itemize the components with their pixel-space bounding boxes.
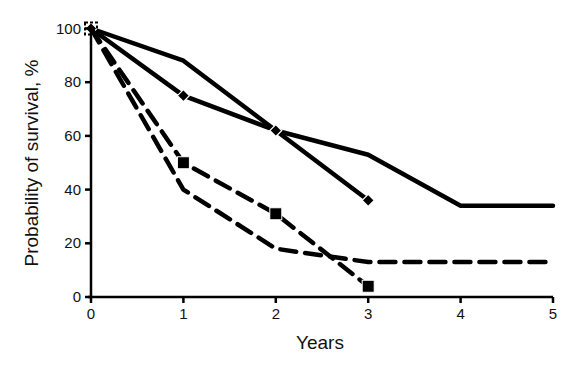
plot-area — [85, 23, 553, 293]
y-tick-label: 20 — [64, 234, 81, 251]
series-line — [91, 29, 553, 206]
x-tick-label: 0 — [87, 305, 95, 322]
x-tick-label: 1 — [179, 305, 187, 322]
x-tick-label: 3 — [364, 305, 372, 322]
series-4 — [91, 29, 553, 263]
square-marker-icon — [270, 208, 282, 220]
y-tick-label: 100 — [56, 20, 81, 37]
y-tick-label: 0 — [73, 288, 81, 305]
square-marker-icon — [362, 280, 374, 292]
series-1 — [91, 29, 553, 206]
series-2 — [85, 23, 374, 207]
y-tick-label: 80 — [64, 73, 81, 90]
x-axis-title: Years — [296, 332, 344, 353]
survival-chart: 012345 020406080100 Years Probability of… — [0, 0, 575, 369]
y-axis-title: Probability of survival, % — [21, 59, 42, 266]
y-tick-label: 40 — [64, 181, 81, 198]
x-axis-ticks: 012345 — [87, 297, 557, 322]
y-axis-ticks: 020406080100 — [56, 20, 91, 306]
y-tick-label: 60 — [64, 127, 81, 144]
series-line — [91, 29, 368, 201]
series-3 — [85, 23, 374, 293]
series-line — [91, 29, 368, 287]
x-tick-label: 4 — [456, 305, 464, 322]
series-line — [91, 29, 553, 263]
square-marker-icon — [177, 157, 189, 169]
x-tick-label: 5 — [549, 305, 557, 322]
x-tick-label: 2 — [272, 305, 280, 322]
